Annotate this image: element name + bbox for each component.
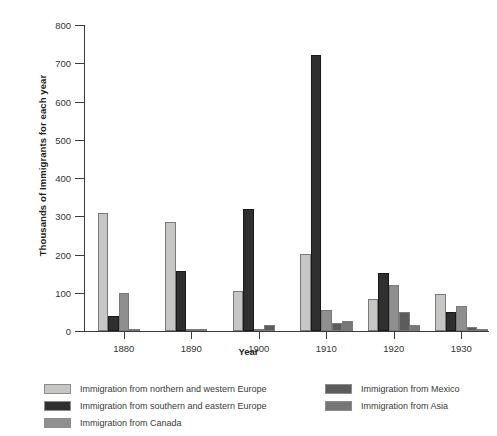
bar [98,213,109,331]
x-tick-mark [191,331,192,339]
legend-item: Immigration from Asia [325,398,460,413]
legend-item-label: Immigration from Asia [361,401,448,411]
y-tick-mark [75,255,84,256]
legend-item: Immigration from southern and eastern Eu… [44,398,267,413]
y-tick-label: 700 [55,58,71,69]
bar [456,306,467,331]
y-tick-mark [75,293,84,294]
y-axis-title: Thousands of Immigrants for each year [37,36,48,296]
bar [165,222,176,331]
legend-item: Immigration from Canada [44,415,267,430]
legend-swatch-icon [44,401,71,411]
x-tick-mark [461,331,462,339]
y-tick-mark [75,63,84,64]
bar [446,312,457,332]
bar [332,323,343,331]
bar [129,329,140,331]
bar [342,321,353,331]
immigration-bar-chart: Thousands of Immigrants for each year 01… [0,0,497,436]
x-tick-mark [124,331,125,339]
bar [119,293,130,331]
y-axis-line [84,25,85,332]
y-tick-mark [75,140,84,141]
y-tick-mark [75,331,84,332]
legend-column-left: Immigration from northern and western Eu… [44,381,267,432]
bar [477,329,488,331]
bar [311,55,322,331]
y-tick-label: 100 [55,287,71,298]
bar [368,299,379,332]
bar [197,329,208,331]
x-tick-mark [394,331,395,339]
y-tick-label: 600 [55,96,71,107]
legend-swatch-icon [44,384,71,394]
bar [264,325,275,331]
y-tick-label: 800 [55,20,71,31]
plot-area: 0100200300400500600700800 18801890190019… [84,25,489,332]
legend-item: Immigration from northern and western Eu… [44,381,267,396]
y-tick-mark [75,25,84,26]
bar [435,294,446,331]
x-axis-line [84,331,489,332]
y-tick-label: 400 [55,173,71,184]
legend-item-label: Immigration from Canada [80,418,182,428]
x-tick-mark [326,331,327,339]
bar [186,329,197,331]
bar [378,273,389,331]
bar [399,312,410,331]
bar [108,316,119,331]
bar [176,271,187,331]
y-tick-label: 500 [55,134,71,145]
y-tick-label: 300 [55,211,71,222]
y-tick-label: 200 [55,249,71,260]
bar [300,254,311,331]
bar [233,291,244,331]
bar [254,329,265,331]
bar [321,310,332,331]
legend-item-label: Immigration from southern and eastern Eu… [80,401,267,411]
y-tick-label: 0 [66,326,71,337]
y-tick-mark [75,178,84,179]
x-tick-mark [259,331,260,339]
legend-item: Immigration from Mexico [325,381,460,396]
legend-swatch-icon [325,384,352,394]
bar [410,325,421,332]
legend-swatch-icon [325,401,352,411]
bar [389,285,400,331]
legend-column-right: Immigration from MexicoImmigration from … [325,381,460,415]
bar [467,327,478,331]
chart-legend: Immigration from northern and western Eu… [0,381,497,433]
x-axis-title: Year [0,346,497,357]
legend-item-label: Immigration from Mexico [361,384,460,394]
legend-swatch-icon [44,418,71,428]
y-tick-mark [75,102,84,103]
y-tick-mark [75,216,84,217]
bar [243,209,254,331]
legend-item-label: Immigration from northern and western Eu… [80,384,267,394]
